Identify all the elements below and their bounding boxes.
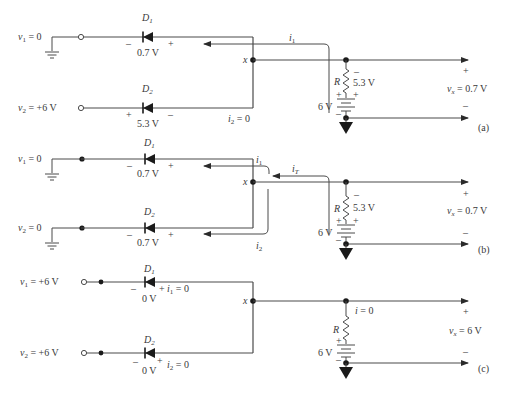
i1-label: i1 = 0 bbox=[167, 283, 189, 296]
vx-label: vx = 0.7 V bbox=[447, 205, 488, 218]
resistor-plus: + bbox=[353, 215, 359, 226]
i1-label: i1 bbox=[256, 154, 263, 167]
resistor-r-icon bbox=[343, 301, 349, 344]
diode-d1-icon bbox=[145, 277, 155, 288]
node-x-label: x bbox=[242, 295, 248, 306]
v2-label: v2 = +6 V bbox=[20, 347, 60, 360]
battery-voltage: 6 V bbox=[318, 347, 333, 358]
d2-voltage: 0.7 V bbox=[137, 237, 160, 248]
d2-voltage: 5.3 V bbox=[137, 118, 160, 129]
ground-triangle-icon bbox=[339, 248, 353, 260]
d2-voltage: 0 V bbox=[142, 365, 157, 376]
ground-triangle-icon bbox=[339, 367, 353, 379]
d2-label: D2 bbox=[143, 206, 155, 219]
resistor-minus: – bbox=[353, 66, 360, 77]
resistor-r-icon bbox=[343, 60, 349, 98]
vx-plus: + bbox=[463, 188, 469, 199]
panel-label-a: (a) bbox=[478, 122, 489, 134]
diode-or-gate-figure: v1 = 0 D1 – + 0.7 V v2 = +6 V D2 + – bbox=[0, 0, 509, 399]
d2-label: D2 bbox=[141, 83, 153, 96]
d1-plus-sign: + bbox=[168, 38, 174, 49]
vx-label: vx = 0.7 V bbox=[447, 83, 488, 96]
d2-plus-sign: + bbox=[157, 355, 163, 366]
input-terminal-v1 bbox=[78, 34, 83, 39]
i1-current-arrow bbox=[204, 166, 269, 174]
input-terminal-v2 bbox=[81, 350, 86, 355]
diode-d2-icon bbox=[143, 103, 153, 114]
battery-minus: – bbox=[335, 108, 342, 119]
i1-label: i1 bbox=[289, 32, 296, 45]
resistor-plus: + bbox=[353, 89, 359, 100]
d1-label: D1 bbox=[143, 263, 155, 276]
vx-plus: + bbox=[463, 306, 469, 317]
battery-minus: – bbox=[335, 234, 342, 245]
v1-label: v1 = 0 bbox=[18, 153, 42, 166]
vx-minus: – bbox=[462, 227, 469, 238]
diode-d1-icon bbox=[143, 32, 153, 43]
ground-icon bbox=[45, 37, 81, 58]
diode-d1-icon bbox=[145, 154, 155, 165]
d2-minus-sign: – bbox=[167, 109, 174, 120]
i2-current-arrow bbox=[204, 189, 268, 234]
diode-d2-icon bbox=[145, 348, 155, 359]
d1-voltage: 0.7 V bbox=[137, 168, 160, 179]
junction-dot bbox=[99, 351, 104, 356]
resistor-label: R bbox=[333, 203, 340, 214]
panel-b: v1 = 0 D1 – + 0.7 V v2 = 0 D2 bbox=[18, 137, 490, 260]
d2-plus-sign: + bbox=[126, 109, 132, 120]
diode-d2-icon bbox=[145, 223, 155, 234]
ground-icon bbox=[45, 159, 81, 180]
d1-voltage: 0 V bbox=[142, 293, 157, 304]
d1-minus-sign: – bbox=[125, 38, 132, 49]
vx-label: vx = 6 V bbox=[449, 325, 483, 338]
d2-plus-sign: + bbox=[168, 229, 174, 240]
input-terminal-v2 bbox=[78, 105, 83, 110]
vx-minus: – bbox=[462, 100, 469, 111]
resistor-label: R bbox=[333, 76, 340, 87]
panel-label-b: (b) bbox=[478, 244, 490, 256]
battery-voltage: 6 V bbox=[318, 101, 333, 112]
d2-label: D2 bbox=[143, 334, 155, 347]
i-label: i = 0 bbox=[355, 305, 373, 316]
resistor-label: R bbox=[332, 324, 339, 335]
i2-label: i2 bbox=[256, 240, 263, 253]
d1-label: D1 bbox=[141, 12, 153, 25]
v2-label: v2 = 0 bbox=[18, 222, 42, 235]
d1-label: D1 bbox=[143, 137, 155, 150]
resistor-voltage: 5.3 V bbox=[353, 202, 376, 213]
resistor-voltage: 5.3 V bbox=[353, 77, 376, 88]
battery-plus: + bbox=[336, 335, 342, 346]
node-x-label: x bbox=[242, 54, 248, 65]
resistor-minus: – bbox=[353, 189, 360, 200]
iT-current-arrow bbox=[273, 176, 329, 234]
d1-minus-sign: – bbox=[126, 160, 133, 171]
panel-c: v1 = +6 V D1 – + i1 = 0 0 V v2 = +6 V D2… bbox=[20, 263, 489, 379]
d1-plus-sign: + bbox=[159, 283, 165, 294]
ground-triangle-icon bbox=[339, 122, 353, 134]
d1-minus-sign: – bbox=[130, 283, 137, 294]
battery-voltage: 6 V bbox=[318, 227, 333, 238]
d2-minus-sign: – bbox=[126, 229, 133, 240]
vx-minus: – bbox=[462, 346, 469, 357]
input-terminal-v1 bbox=[81, 279, 86, 284]
d2-minus-sign: – bbox=[132, 356, 139, 367]
d1-plus-sign: + bbox=[168, 160, 174, 171]
panel-a: v1 = 0 D1 – + 0.7 V v2 = +6 V D2 + – bbox=[18, 12, 489, 134]
battery-minus: – bbox=[335, 354, 342, 365]
v1-label: v1 = 0 bbox=[18, 31, 42, 44]
d1-voltage: 0.7 V bbox=[137, 47, 160, 58]
battery-plus: + bbox=[336, 89, 342, 100]
node-x-label: x bbox=[242, 176, 248, 187]
panel-label-c: (c) bbox=[478, 363, 489, 375]
i2-label: i2 = 0 bbox=[228, 113, 250, 126]
i1-current-arrow bbox=[204, 44, 329, 113]
v2-label: v2 = +6 V bbox=[18, 102, 58, 115]
vx-plus: + bbox=[463, 65, 469, 76]
v1-label: v1 = +6 V bbox=[20, 276, 60, 289]
i2-label: i2 = 0 bbox=[167, 359, 189, 372]
junction-dot bbox=[99, 280, 104, 285]
resistor-r-icon bbox=[343, 182, 349, 224]
battery-plus: + bbox=[336, 215, 342, 226]
iT-label: iT bbox=[292, 163, 300, 176]
ground-icon bbox=[45, 228, 81, 249]
